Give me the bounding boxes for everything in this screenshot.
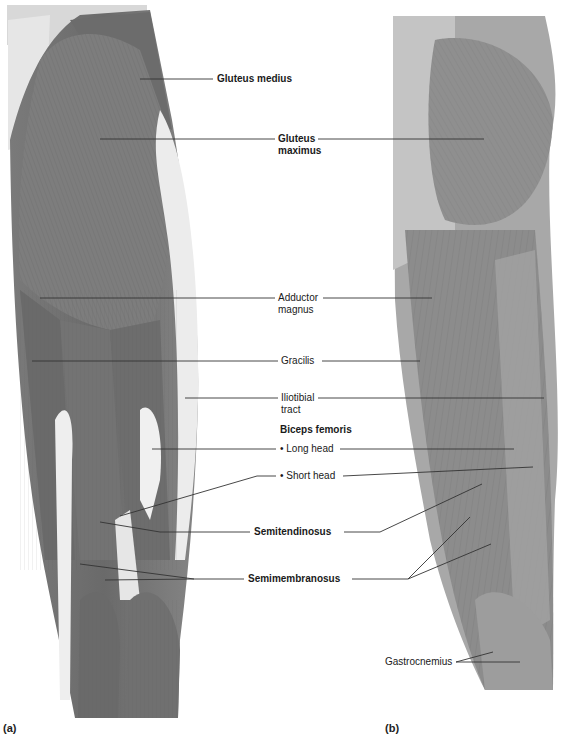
panel-tag-b: (b)	[385, 722, 399, 734]
label-adductor-magnus-line2: magnus	[276, 304, 316, 316]
label-biceps-femoris: Biceps femoris	[278, 424, 354, 436]
label-gracilis: Gracilis	[279, 355, 316, 367]
label-gluteus-medius: Gluteus medius	[215, 73, 294, 85]
label-long-head: • Long head	[278, 443, 336, 455]
label-iliotibial-tract-line2: tract	[279, 404, 302, 416]
posterior-thigh-illustration	[0, 0, 240, 720]
label-gluteus-maximus-line2: maximus	[276, 145, 323, 157]
panel-tag-a: (a)	[3, 722, 16, 734]
panel-a-illustration	[0, 0, 240, 720]
label-short-head: • Short head	[278, 470, 337, 482]
label-semitendinosus: Semitendinosus	[252, 526, 333, 538]
label-semimembranosus: Semimembranosus	[246, 573, 342, 585]
panel-b-photo	[385, 0, 585, 720]
label-gastrocnemius: Gastrocnemius	[383, 656, 454, 668]
label-adductor-magnus-line1: Adductor	[276, 292, 320, 304]
label-iliotibial-tract-line1: Iliotibial	[279, 392, 316, 404]
cadaver-thigh-photo	[385, 0, 585, 720]
label-gluteus-maximus-line1: Gluteus	[276, 133, 317, 145]
